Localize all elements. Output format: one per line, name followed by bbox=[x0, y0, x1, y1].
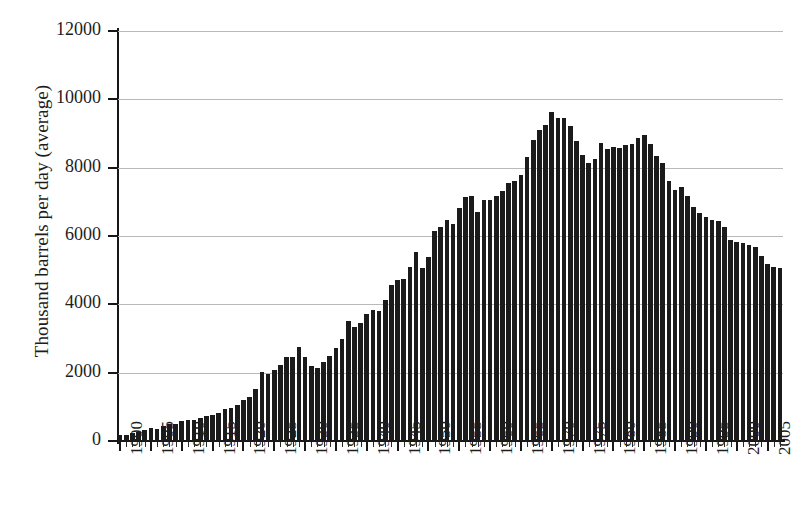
x-axis-minor-tick bbox=[373, 442, 374, 447]
x-axis-minor-tick bbox=[484, 442, 485, 447]
bar bbox=[617, 148, 622, 441]
x-axis-minor-tick bbox=[663, 442, 664, 447]
bar bbox=[679, 187, 684, 441]
bar bbox=[118, 435, 123, 441]
x-axis-minor-tick bbox=[132, 442, 133, 447]
bar bbox=[210, 415, 215, 441]
x-axis-tick bbox=[736, 442, 738, 451]
x-axis-minor-tick bbox=[478, 442, 479, 447]
bar bbox=[241, 400, 246, 441]
x-axis-minor-tick bbox=[250, 442, 251, 447]
y-axis-tick-label: 10000 bbox=[0, 87, 101, 108]
x-axis-minor-tick bbox=[391, 442, 392, 447]
bar bbox=[691, 207, 696, 441]
x-axis-tick-label: 1905 bbox=[158, 421, 178, 455]
x-axis-tick-label: 1990 bbox=[682, 421, 702, 455]
x-axis-tick bbox=[181, 442, 183, 451]
x-axis-tick bbox=[520, 442, 522, 451]
bar bbox=[488, 200, 493, 441]
x-axis-minor-tick bbox=[496, 442, 497, 447]
x-axis-minor-tick bbox=[780, 442, 781, 447]
x-axis-tick-label: 2005 bbox=[775, 421, 795, 455]
bar bbox=[395, 280, 400, 441]
bar bbox=[734, 242, 739, 441]
bar bbox=[673, 190, 678, 441]
x-axis-minor-tick bbox=[293, 442, 294, 447]
y-axis-tick-label: 8000 bbox=[0, 156, 101, 177]
x-axis-minor-tick bbox=[632, 442, 633, 447]
x-axis-tick-label: 1995 bbox=[713, 421, 733, 455]
x-axis-minor-tick bbox=[354, 442, 355, 447]
x-axis-minor-tick bbox=[410, 442, 411, 447]
bar bbox=[506, 183, 511, 441]
bar bbox=[568, 126, 573, 441]
x-axis-tick bbox=[643, 442, 645, 451]
x-axis-tick bbox=[458, 442, 460, 451]
bar bbox=[642, 135, 647, 441]
x-axis-tick-label: 1930 bbox=[312, 421, 332, 455]
x-axis-minor-tick bbox=[416, 442, 417, 447]
x-axis-tick bbox=[150, 442, 152, 451]
x-axis-minor-tick bbox=[145, 442, 146, 447]
x-axis-minor-tick bbox=[237, 442, 238, 447]
x-axis-minor-tick bbox=[126, 442, 127, 447]
bar bbox=[389, 285, 394, 441]
bar bbox=[741, 243, 746, 441]
x-axis-tick bbox=[212, 442, 214, 451]
x-axis-tick bbox=[335, 442, 337, 451]
bar bbox=[303, 357, 308, 441]
bar bbox=[451, 224, 456, 441]
bar bbox=[605, 149, 610, 441]
bar bbox=[432, 231, 437, 441]
x-axis-minor-tick bbox=[712, 442, 713, 447]
x-axis-minor-tick bbox=[694, 442, 695, 447]
x-axis-minor-tick bbox=[311, 442, 312, 447]
x-axis-minor-tick bbox=[361, 442, 362, 447]
x-axis-minor-tick bbox=[287, 442, 288, 447]
x-axis-tick-label: 1910 bbox=[189, 421, 209, 455]
x-axis-tick-label: 1925 bbox=[281, 421, 301, 455]
x-axis-tick-label: 1945 bbox=[405, 421, 425, 455]
bar bbox=[426, 257, 431, 442]
x-axis-minor-tick bbox=[139, 442, 140, 447]
bar bbox=[771, 267, 776, 441]
x-axis-minor-tick bbox=[465, 442, 466, 447]
x-axis-tick bbox=[551, 442, 553, 451]
bar bbox=[334, 348, 339, 441]
bar bbox=[469, 196, 474, 441]
bar bbox=[580, 155, 585, 441]
x-axis-tick bbox=[767, 442, 769, 451]
x-axis-tick-label: 1955 bbox=[466, 421, 486, 455]
x-axis-minor-tick bbox=[342, 442, 343, 447]
bar bbox=[697, 213, 702, 441]
bar bbox=[420, 268, 425, 441]
x-axis-minor-tick bbox=[280, 442, 281, 447]
bar bbox=[525, 157, 530, 441]
x-axis-tick-label: 1935 bbox=[343, 421, 363, 455]
x-axis-minor-tick bbox=[607, 442, 608, 447]
x-axis-tick-label: 1975 bbox=[590, 421, 610, 455]
x-axis-tick-label: 1985 bbox=[651, 421, 671, 455]
bar bbox=[574, 141, 579, 441]
x-axis-minor-tick bbox=[527, 442, 528, 447]
plot-area bbox=[117, 31, 783, 441]
bar bbox=[401, 279, 406, 441]
x-axis-minor-tick bbox=[650, 442, 651, 447]
x-axis-minor-tick bbox=[509, 442, 510, 447]
bar bbox=[179, 421, 184, 441]
x-axis-minor-tick bbox=[502, 442, 503, 447]
bar bbox=[272, 370, 277, 441]
bar bbox=[759, 256, 764, 441]
x-axis-tick-label: 2000 bbox=[744, 421, 764, 455]
bar bbox=[586, 163, 591, 441]
bar bbox=[482, 200, 487, 441]
x-axis-minor-tick bbox=[453, 442, 454, 447]
bar bbox=[599, 143, 604, 441]
x-axis-minor-tick bbox=[348, 442, 349, 447]
x-axis-minor-tick bbox=[219, 442, 220, 447]
bar bbox=[685, 196, 690, 441]
x-axis-minor-tick bbox=[743, 442, 744, 447]
bar bbox=[556, 118, 561, 441]
x-axis-tick-label: 1960 bbox=[497, 421, 517, 455]
x-axis-minor-tick bbox=[262, 442, 263, 447]
